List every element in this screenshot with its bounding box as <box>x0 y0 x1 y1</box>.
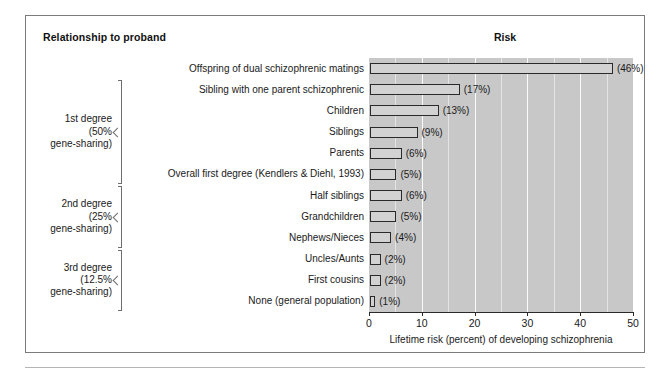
degree-group-label: 1st degree(50%gene-sharing) <box>50 113 115 150</box>
bottom-divider-rule <box>25 367 645 368</box>
degree-group-label: 2nd degree(25%gene-sharing) <box>50 198 115 235</box>
category-label: First cousins <box>308 275 364 285</box>
category-label: Sibling with one parent schizophrenic <box>199 85 364 95</box>
curly-brace-icon <box>115 79 122 185</box>
bar-value-label: (2%) <box>385 274 406 287</box>
bar-track: (2%) <box>369 270 633 291</box>
category-label: Nephews/Nieces <box>289 233 364 243</box>
category-label: Parents <box>330 148 364 158</box>
bar-value-label: (6%) <box>406 189 427 202</box>
bar <box>370 148 402 159</box>
bar-track: (17%) <box>369 79 633 100</box>
x-axis-line <box>369 312 633 313</box>
x-axis-label: Lifetime risk (percent) of developing sc… <box>369 334 633 345</box>
bar-value-label: (13%) <box>443 104 470 117</box>
x-tick-label: 0 <box>366 317 372 329</box>
bar <box>370 105 439 116</box>
bar <box>370 190 402 201</box>
chart-row: Offspring of dual schizophrenic matings(… <box>26 58 633 79</box>
bar-value-label: (5%) <box>400 168 421 181</box>
bar-track: (13%) <box>369 100 633 121</box>
bar-track: (46%) <box>369 58 633 79</box>
bar <box>370 296 375 307</box>
bar <box>370 169 396 180</box>
category-label: Siblings <box>329 127 364 137</box>
category-label: Grandchildren <box>301 212 364 222</box>
bar-track: (5%) <box>369 206 633 227</box>
bar-track: (1%) <box>369 291 633 312</box>
degree-group: 3rd degree(12.5%gene-sharing) <box>36 249 122 313</box>
category-label: Offspring of dual schizophrenic matings <box>189 64 364 74</box>
x-tick-label: 50 <box>627 317 639 329</box>
curly-brace-icon <box>115 249 122 313</box>
bar <box>370 232 391 243</box>
category-label: Half siblings <box>310 191 364 201</box>
category-label: None (general population) <box>248 296 364 306</box>
curly-brace-icon <box>115 185 122 249</box>
bar <box>370 84 460 95</box>
bar <box>370 275 381 286</box>
category-label: Overall first degree (Kendlers & Diehl, … <box>168 169 364 179</box>
x-tick <box>527 312 528 316</box>
degree-group: 1st degree(50%gene-sharing) <box>36 79 122 185</box>
bar-track: (6%) <box>369 143 633 164</box>
x-tick <box>422 312 423 316</box>
bar-value-label: (2%) <box>385 253 406 266</box>
x-tick <box>580 312 581 316</box>
bar-value-label: (5%) <box>400 210 421 223</box>
bar-value-label: (6%) <box>406 147 427 160</box>
category-label: Children <box>327 106 364 116</box>
column-header-risk: Risk <box>494 31 516 43</box>
bar <box>370 254 381 265</box>
column-header-relationship: Relationship to proband <box>43 31 166 43</box>
bar-value-label: (4%) <box>395 231 416 244</box>
x-tick <box>633 312 634 316</box>
bar-track: (2%) <box>369 249 633 270</box>
bar-track: (4%) <box>369 227 633 248</box>
bar-track: (5%) <box>369 164 633 185</box>
category-label: Uncles/Aunts <box>305 254 364 264</box>
bar-value-label: (17%) <box>464 83 491 96</box>
figure-frame: Relationship to proband Risk Offspring o… <box>25 15 645 353</box>
degree-group: 2nd degree(25%gene-sharing) <box>36 185 122 249</box>
x-tick-label: 40 <box>574 317 586 329</box>
bar <box>370 127 418 138</box>
bar-track: (6%) <box>369 185 633 206</box>
bar <box>370 63 613 74</box>
bar <box>370 211 396 222</box>
bar-track: (9%) <box>369 122 633 143</box>
x-tick <box>369 312 370 316</box>
x-tick-label: 20 <box>469 317 481 329</box>
x-tick-label: 10 <box>416 317 428 329</box>
x-tick <box>475 312 476 316</box>
bar-value-label: (46%) <box>617 62 644 75</box>
degree-group-label: 3rd degree(12.5%gene-sharing) <box>50 262 115 299</box>
bar-value-label: (1%) <box>379 295 400 308</box>
x-tick-label: 30 <box>522 317 534 329</box>
bar-value-label: (9%) <box>422 126 443 139</box>
